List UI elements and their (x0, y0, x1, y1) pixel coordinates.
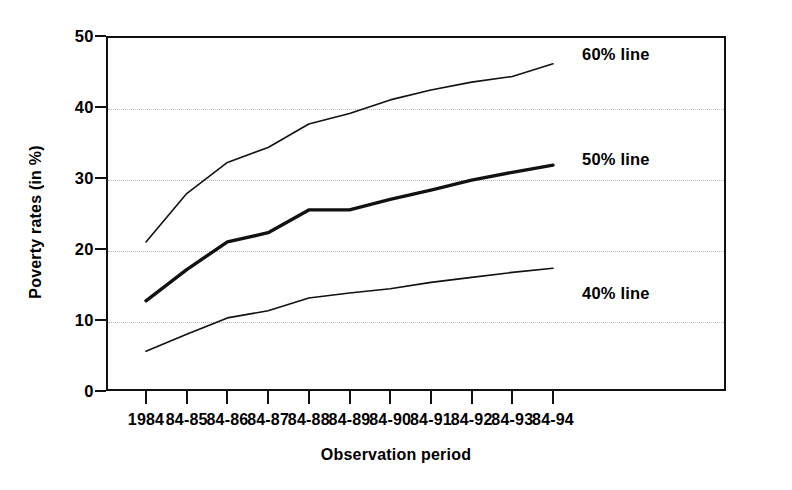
chart-figure: 01020304050 Poverty rates (in %) 198484-… (0, 0, 792, 490)
series-label-0: 60% line (582, 45, 650, 64)
series-line-0 (146, 64, 553, 242)
series-line-1 (146, 165, 553, 301)
series-label-2: 40% line (582, 284, 650, 303)
series-label-1: 50% line (582, 150, 650, 169)
series-line-2 (146, 268, 553, 351)
series-lines (0, 0, 792, 490)
